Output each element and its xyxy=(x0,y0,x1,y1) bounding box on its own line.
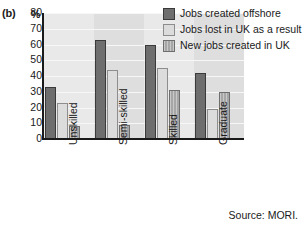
bar xyxy=(207,109,218,139)
legend-label: Jobs created offshore xyxy=(180,7,281,20)
figure-panel-b: (b) % 80706050403020100 UnskilledSemi-sk… xyxy=(0,0,304,229)
bar xyxy=(145,45,156,140)
legend-swatch xyxy=(163,40,175,52)
legend-item: Jobs created offshore xyxy=(163,6,301,21)
bar xyxy=(45,87,56,139)
y-tick-label: 80 xyxy=(2,6,42,19)
x-axis-label-semi-skilled: Semi-skilled xyxy=(117,88,129,145)
legend-swatch xyxy=(163,24,175,36)
bar xyxy=(195,73,206,139)
y-tick-label: 60 xyxy=(2,38,42,51)
y-tick-label: 20 xyxy=(2,101,42,114)
bar xyxy=(157,68,168,139)
legend-item: Jobs lost in UK as a result xyxy=(163,22,301,37)
source-note: Source: MORI. xyxy=(229,209,298,221)
x-axis-label-unskilled: Unskilled xyxy=(67,102,79,145)
y-tick-label: 50 xyxy=(2,53,42,66)
y-tick-label: 30 xyxy=(2,85,42,98)
chart-legend: Jobs created offshoreJobs lost in UK as … xyxy=(163,6,301,53)
y-tick-label: 40 xyxy=(2,69,42,82)
x-axis-label-graduate: Graduate xyxy=(217,101,229,145)
bar xyxy=(95,40,106,139)
y-tick-label: 70 xyxy=(2,22,42,35)
legend-label: New jobs created in UK xyxy=(180,39,290,52)
y-tick-label: 0 xyxy=(2,132,42,145)
legend-label: Jobs lost in UK as a result xyxy=(180,23,301,36)
bar xyxy=(107,70,118,139)
x-axis-label-skilled: Skilled xyxy=(167,114,179,145)
legend-swatch xyxy=(163,8,175,20)
bar xyxy=(57,103,68,139)
legend-item: New jobs created in UK xyxy=(163,38,301,53)
y-tick-label: 10 xyxy=(2,116,42,129)
